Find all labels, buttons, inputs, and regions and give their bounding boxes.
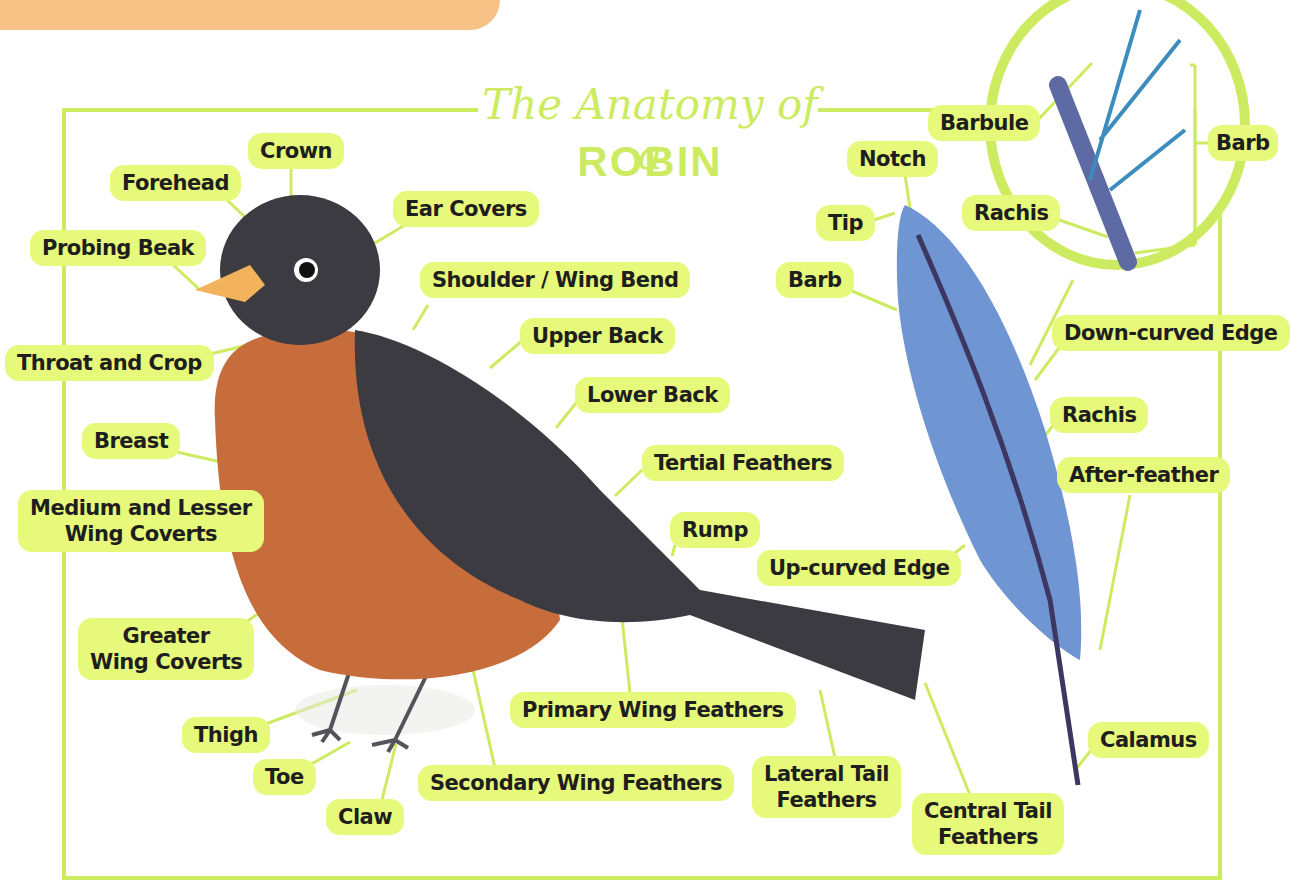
- feather-illustration: [897, 205, 1081, 785]
- label-lateral-tail-feathers: Lateral Tail Feathers: [752, 756, 901, 818]
- label-ear-covers: Ear Covers: [393, 191, 539, 227]
- inset-rachis-illustration: [1058, 10, 1185, 262]
- label-lower-back: Lower Back: [575, 377, 730, 413]
- label-rump: Rump: [670, 512, 760, 548]
- label-central-tail-feathers: Central Tail Feathers: [912, 793, 1064, 855]
- label-crown: Crown: [248, 133, 344, 169]
- label-greater-wing-coverts: Greater Wing Coverts: [78, 618, 254, 680]
- label-notch: Notch: [847, 141, 938, 177]
- label-inset-barb: Barb: [1208, 125, 1278, 161]
- label-claw: Claw: [326, 799, 404, 835]
- label-primary-wing-feathers: Primary Wing Feathers: [510, 692, 796, 728]
- label-secondary-wing-feathers: Secondary Wing Feathers: [418, 765, 734, 801]
- label-shoulder-wing-bend: Shoulder / Wing Bend: [420, 262, 690, 298]
- label-throat-and-crop: Throat and Crop: [5, 345, 214, 381]
- label-barb: Barb: [776, 262, 854, 298]
- label-forehead: Forehead: [110, 165, 241, 201]
- label-probing-beak: Probing Beak: [30, 230, 206, 266]
- label-tertial-feathers: Tertial Feathers: [642, 445, 844, 481]
- label-after-feather: After-feather: [1057, 457, 1230, 493]
- label-rachis: Rachis: [1050, 397, 1148, 433]
- label-up-curved-edge: Up-curved Edge: [757, 550, 961, 586]
- label-inset-rachis: Rachis: [962, 195, 1060, 231]
- label-tip: Tip: [816, 205, 875, 241]
- label-thigh: Thigh: [182, 717, 270, 753]
- label-breast: Breast: [82, 423, 180, 459]
- label-medium-lesser-wing-coverts: Medium and Lesser Wing Coverts: [18, 490, 264, 552]
- label-toe: Toe: [253, 759, 316, 795]
- label-calamus: Calamus: [1088, 722, 1209, 758]
- label-barbule: Barbule: [928, 105, 1040, 141]
- label-down-curved-edge: Down-curved Edge: [1052, 315, 1290, 351]
- label-upper-back: Upper Back: [520, 318, 675, 354]
